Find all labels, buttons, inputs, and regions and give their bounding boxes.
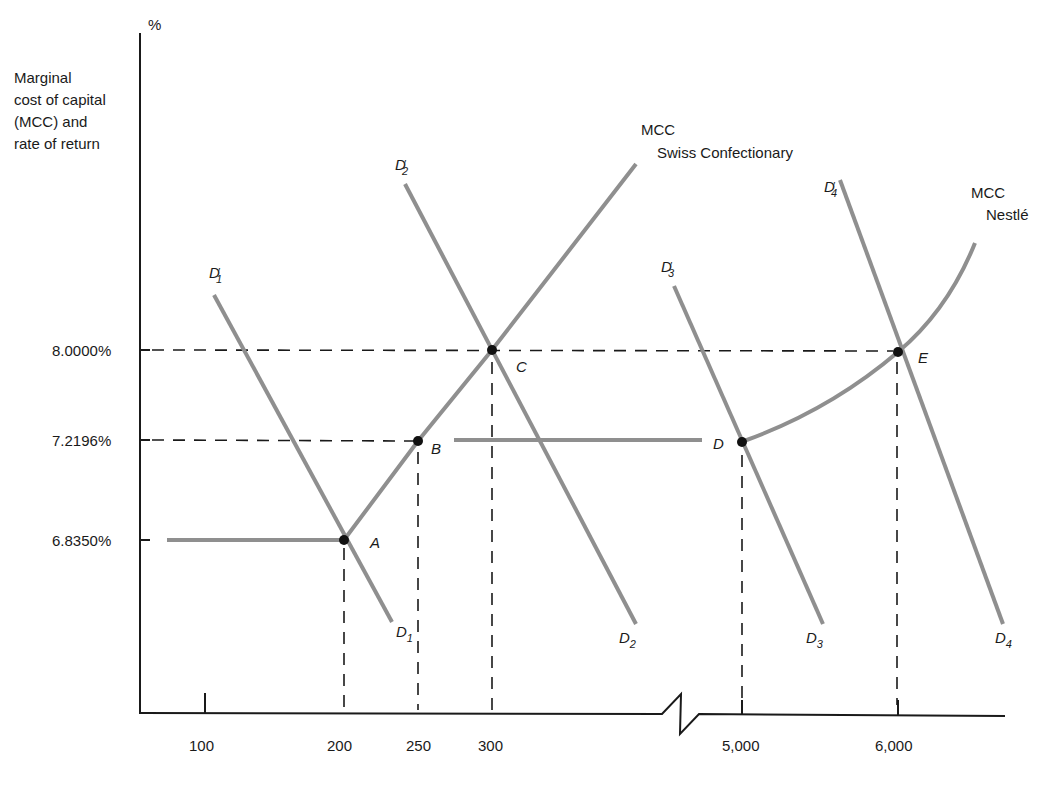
point-d-dot: [737, 437, 747, 447]
x-tick-label-200: 200: [327, 737, 352, 754]
mcc-nestle-curve: [744, 243, 975, 441]
svg-text:D4: D4: [995, 629, 1012, 650]
point-c-label: C: [516, 358, 527, 375]
svg-text:D′2: D′2: [395, 156, 408, 177]
point-b-label: B: [431, 440, 441, 457]
point-c-dot: [487, 345, 497, 355]
point-a-label: A: [369, 534, 380, 551]
y-axis-label-line-2: cost of capital: [14, 91, 106, 108]
svg-text:D3: D3: [806, 629, 824, 650]
y-tick-label-6-835: 6.8350%: [52, 532, 111, 549]
y-tick-label-8: 8.0000%: [52, 342, 111, 359]
demand-curve-d1: [214, 295, 392, 622]
d2-label: D2: [619, 629, 636, 650]
mcc-diagram: % Marginal cost of capital (MCC) and rat…: [0, 0, 1059, 787]
point-b-dot: [413, 436, 423, 446]
mcc-nestle-label-line-2: Nestlé: [986, 206, 1029, 223]
mcc-nestle-label-line-1: MCC: [971, 184, 1005, 201]
d4-prime-label: D′4: [824, 178, 837, 199]
y-axis-unit: %: [148, 16, 161, 33]
x-tick-label-100: 100: [189, 737, 214, 754]
x-tick-label-5000: 5,000: [722, 737, 760, 754]
guide-8-percent: [152, 350, 893, 351]
demand-curve-d4: [840, 180, 1003, 624]
demand-curve-d3: [674, 286, 823, 624]
point-d-label: D: [713, 435, 724, 452]
y-axis-label-line-1: Marginal: [14, 69, 72, 86]
guide-7-2196-percent: [152, 440, 414, 441]
y-axis-label-line-4: rate of return: [14, 135, 100, 152]
d4-label: D4: [995, 629, 1012, 650]
x-tick-label-6000: 6,000: [875, 737, 913, 754]
x-tick-label-250: 250: [406, 737, 431, 754]
x-axis-with-break: [140, 694, 1005, 734]
svg-text:D2: D2: [619, 629, 636, 650]
d3-prime-label: D′3: [661, 258, 675, 279]
d1-prime-label: D′1: [209, 264, 222, 285]
point-a-dot: [339, 535, 349, 545]
x-tick-label-300: 300: [478, 737, 503, 754]
d2-prime-label: D′2: [395, 156, 408, 177]
d3-label: D3: [806, 629, 824, 650]
point-e-dot: [893, 347, 903, 357]
y-tick-label-7-2196: 7.2196%: [52, 432, 111, 449]
y-axis-label-line-3: (MCC) and: [14, 113, 87, 130]
mcc-swiss-label-line-2: Swiss Confectionary: [657, 144, 793, 161]
svg-text:D′3: D′3: [661, 258, 675, 279]
mcc-swiss-confectionary-curve: [167, 164, 636, 540]
demand-curve-d2: [405, 184, 636, 624]
svg-text:D′1: D′1: [209, 264, 222, 285]
svg-text:D′4: D′4: [824, 178, 837, 199]
d1-label: D1: [396, 623, 413, 644]
svg-text:D1: D1: [396, 623, 413, 644]
mcc-swiss-label-line-1: MCC: [641, 121, 675, 138]
point-e-label: E: [918, 349, 929, 366]
